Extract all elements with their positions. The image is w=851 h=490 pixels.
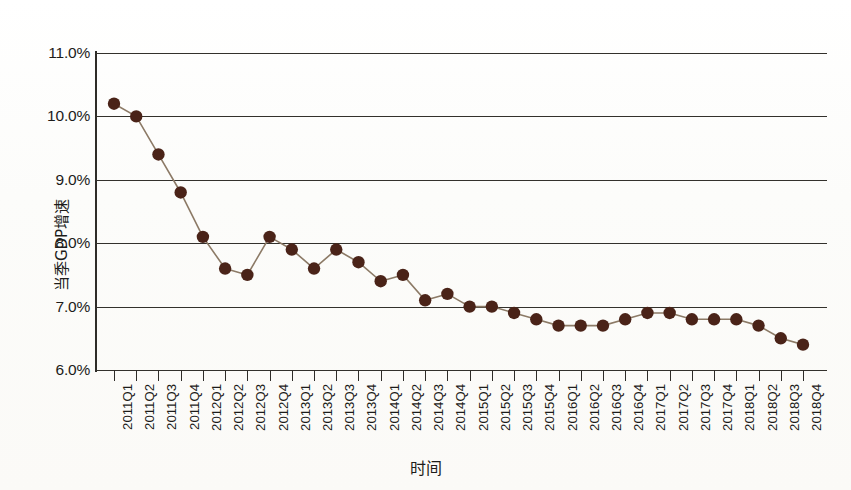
x-tick bbox=[381, 370, 382, 381]
x-tick bbox=[136, 370, 137, 381]
x-tick bbox=[736, 370, 737, 381]
x-tick-label: 2017Q3 bbox=[698, 384, 713, 431]
x-tick-label: 2016Q4 bbox=[631, 384, 646, 431]
x-tick bbox=[514, 370, 515, 381]
x-tick-label: 2011Q2 bbox=[142, 384, 157, 430]
gdp-growth-line-chart: 当季GDP增速 11.0%10.0%9.0%8.0%7.0%6.0% 2011Q… bbox=[0, 0, 851, 490]
x-tick-label: 2014Q4 bbox=[453, 384, 468, 431]
data-point-marker bbox=[708, 313, 720, 325]
x-tick bbox=[536, 370, 537, 381]
x-tick-label: 2017Q1 bbox=[653, 384, 668, 431]
x-tick bbox=[336, 370, 337, 381]
x-tick bbox=[625, 370, 626, 381]
data-point-marker bbox=[775, 332, 787, 344]
x-tick-label: 2014Q1 bbox=[387, 384, 402, 431]
x-tick bbox=[714, 370, 715, 381]
plot-area bbox=[96, 53, 827, 370]
x-tick-label: 2011Q1 bbox=[120, 384, 135, 430]
data-point-marker bbox=[286, 243, 298, 255]
x-tick bbox=[581, 370, 582, 381]
y-tick-label: 11.0% bbox=[48, 44, 90, 62]
data-point-marker bbox=[441, 288, 453, 300]
data-point-marker bbox=[486, 300, 498, 312]
y-tick-label: 10.0% bbox=[47, 107, 90, 125]
x-tick-label: 2017Q2 bbox=[676, 384, 691, 431]
x-tick-label: 2015Q1 bbox=[476, 384, 491, 431]
y-tick-label: 6.0% bbox=[55, 361, 90, 379]
x-tick bbox=[158, 370, 159, 381]
data-point-marker bbox=[419, 294, 431, 306]
x-tick-label: 2018Q1 bbox=[742, 384, 757, 431]
x-tick-label: 2015Q4 bbox=[542, 384, 557, 431]
x-axis-title: 时间 bbox=[0, 455, 851, 479]
data-point-marker bbox=[641, 307, 653, 319]
x-tick-label: 2016Q3 bbox=[609, 384, 624, 431]
x-tick bbox=[470, 370, 471, 381]
x-tick bbox=[203, 370, 204, 381]
data-point-marker bbox=[663, 307, 675, 319]
x-tick-label: 2012Q4 bbox=[276, 384, 291, 431]
data-point-marker bbox=[130, 110, 142, 122]
x-tick-label: 2018Q4 bbox=[809, 384, 824, 431]
data-point-marker bbox=[263, 231, 275, 243]
x-tick bbox=[447, 370, 448, 381]
x-tick-label: 2012Q1 bbox=[209, 384, 224, 431]
x-tick bbox=[270, 370, 271, 381]
x-tick-label: 2013Q2 bbox=[320, 384, 335, 431]
x-tick bbox=[114, 370, 115, 381]
data-point-marker bbox=[352, 256, 364, 268]
x-tick-label: 2014Q3 bbox=[431, 384, 446, 431]
x-tick bbox=[181, 370, 182, 381]
x-tick bbox=[292, 370, 293, 381]
data-point-marker bbox=[686, 313, 698, 325]
data-series-gdp-growth bbox=[96, 53, 827, 370]
x-tick bbox=[225, 370, 226, 381]
data-point-marker bbox=[219, 262, 231, 274]
y-axis-tick-labels: 11.0%10.0%9.0%8.0%7.0%6.0% bbox=[0, 0, 90, 490]
y-tick-label: 8.0% bbox=[55, 234, 90, 252]
data-point-marker bbox=[552, 319, 564, 331]
x-tick bbox=[559, 370, 560, 381]
x-tick bbox=[403, 370, 404, 381]
x-tick bbox=[759, 370, 760, 381]
data-point-marker bbox=[197, 231, 209, 243]
x-tick bbox=[492, 370, 493, 381]
data-point-marker bbox=[597, 319, 609, 331]
x-tick bbox=[803, 370, 804, 381]
x-tick bbox=[358, 370, 359, 381]
x-tick-label: 2015Q2 bbox=[498, 384, 513, 431]
data-point-marker bbox=[508, 307, 520, 319]
data-point-marker bbox=[108, 98, 120, 110]
x-tick-label: 2013Q3 bbox=[342, 384, 357, 431]
x-tick bbox=[425, 370, 426, 381]
x-tick-label: 2017Q4 bbox=[720, 384, 735, 431]
y-tick-label: 9.0% bbox=[55, 171, 90, 189]
x-tick-label: 2013Q1 bbox=[298, 384, 313, 431]
x-tick bbox=[603, 370, 604, 381]
data-point-marker bbox=[619, 313, 631, 325]
x-tick bbox=[647, 370, 648, 381]
gridline-6 bbox=[96, 370, 827, 371]
x-tick-label: 2012Q3 bbox=[253, 384, 268, 431]
data-point-marker bbox=[152, 148, 164, 160]
data-point-marker bbox=[330, 243, 342, 255]
x-tick-label: 2015Q3 bbox=[520, 384, 535, 431]
x-tick-label: 2012Q2 bbox=[231, 384, 246, 431]
x-tick-label: 2016Q2 bbox=[587, 384, 602, 431]
data-point-marker bbox=[375, 275, 387, 287]
y-tick-label: 7.0% bbox=[55, 298, 90, 316]
data-point-marker bbox=[241, 269, 253, 281]
x-tick bbox=[670, 370, 671, 381]
x-tick bbox=[247, 370, 248, 381]
data-point-marker bbox=[752, 319, 764, 331]
x-tick-label: 2016Q1 bbox=[565, 384, 580, 431]
data-point-marker bbox=[730, 313, 742, 325]
data-point-marker bbox=[308, 262, 320, 274]
x-tick-label: 2011Q3 bbox=[164, 384, 179, 430]
data-point-marker bbox=[463, 300, 475, 312]
x-tick-label: 2014Q2 bbox=[409, 384, 424, 431]
x-tick-label: 2013Q4 bbox=[364, 384, 379, 431]
data-point-marker bbox=[397, 269, 409, 281]
x-tick-label: 2018Q2 bbox=[765, 384, 780, 431]
x-tick bbox=[781, 370, 782, 381]
